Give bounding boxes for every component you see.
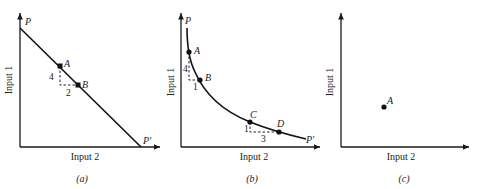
x-axis-label: Input 2 <box>387 151 416 162</box>
point-a-label: A <box>386 95 394 106</box>
point-a <box>381 104 386 109</box>
point-b <box>197 77 202 82</box>
point-c-label: C <box>250 109 257 120</box>
point-b <box>76 83 81 88</box>
panel-b: P P′ A B C D 4 1 1 3 Input 1 Input 2 (b) <box>165 13 320 185</box>
y-axis-label: Input 1 <box>165 68 176 97</box>
isoquant-curve <box>187 28 306 139</box>
point-d-label: D <box>276 118 285 129</box>
x-axis-label: Input 2 <box>240 151 269 162</box>
curve-end-label: P′ <box>305 134 315 145</box>
diagram-canvas: P P′ A B 4 2 Input 1 Input 2 (a) P P′ A … <box>0 0 477 189</box>
panel-c: A Input 1 Input 2 (c) <box>324 13 469 185</box>
x-axis-label: Input 2 <box>71 151 100 162</box>
panel-caption: (a) <box>76 173 88 185</box>
step-ab-vertical-label: 4 <box>183 64 188 74</box>
step-triangle-ab <box>189 52 200 80</box>
curve-start-label: P <box>24 16 31 27</box>
point-a <box>58 64 63 69</box>
panel-a: P P′ A B 4 2 Input 1 Input 2 (a) <box>3 13 160 185</box>
step-vertical-label: 4 <box>49 72 54 82</box>
step-ab-horizontal-label: 1 <box>193 82 198 92</box>
step-horizontal-label: 2 <box>66 88 71 98</box>
point-b-label: B <box>205 72 211 83</box>
y-axis-label: Input 1 <box>324 68 335 97</box>
point-a <box>186 49 191 54</box>
curve-start-label: P <box>184 15 191 26</box>
point-a-label: A <box>193 45 201 56</box>
point-b-label: B <box>82 79 88 90</box>
y-axis-label: Input 1 <box>3 66 14 95</box>
curve-end-label: P′ <box>142 135 152 146</box>
panel-caption: (b) <box>246 173 258 185</box>
point-d <box>276 129 281 134</box>
step-cd-horizontal-label: 3 <box>261 134 266 144</box>
panel-caption: (c) <box>398 173 410 185</box>
step-cd-vertical-label: 1 <box>244 124 249 134</box>
point-a-label: A <box>63 58 71 69</box>
